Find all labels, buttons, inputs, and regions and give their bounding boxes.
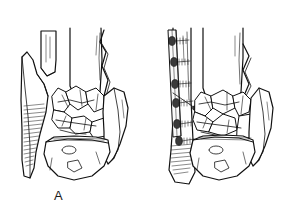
talus-dome: [190, 135, 255, 180]
panel-a: A: [0, 0, 143, 215]
figure-root: A: [0, 0, 286, 215]
fracture-line-lateral: [243, 44, 251, 98]
comminuted-articular-fragments: [52, 86, 110, 138]
panel-a-label: A: [54, 189, 63, 202]
panel-b-illustration: [143, 0, 286, 215]
comminuted-articular-fragments: [193, 90, 255, 138]
talus-dome: [44, 136, 110, 180]
fibular-shaft-fragment: [41, 31, 56, 76]
panel-a-illustration: [0, 0, 143, 215]
panel-b: B: [143, 0, 286, 215]
